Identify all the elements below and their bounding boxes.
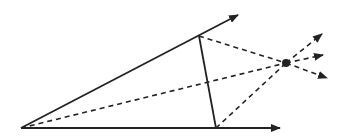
solid-lines — [21, 15, 280, 128]
intersection-point — [282, 59, 290, 67]
dashed-a-to-p — [199, 36, 286, 63]
dashed-b-to-p — [216, 63, 286, 128]
dashed-p-out-middle — [286, 55, 323, 63]
dashed-p-out-lower — [286, 63, 327, 78]
points — [282, 59, 290, 67]
dashed-o-to-p — [21, 63, 286, 128]
ray-construction-diagram — [0, 0, 346, 138]
